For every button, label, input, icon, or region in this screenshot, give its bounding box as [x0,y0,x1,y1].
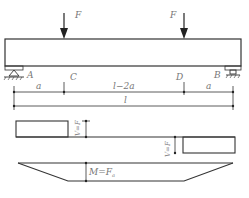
shear-diagram [16,121,235,153]
shear-dim-left [82,121,90,137]
pin-support-icon [4,66,24,80]
dim-label-db: a [206,81,211,91]
roller-support-icon [225,66,241,78]
point-label-c: C [70,72,77,82]
beam [5,39,241,66]
moment-label: M=Fa [88,167,115,178]
shear-label-right: V=F [164,140,172,157]
load-label-left: F [74,10,82,20]
load-arrow-right [180,13,188,39]
shear-label-left: V=F [74,119,82,136]
point-label-a: A [26,70,34,80]
load-label-right: F [169,10,177,20]
point-label-d: D [175,72,183,82]
dim-label-ac: a [36,81,41,91]
moment-diagram [18,163,233,181]
dim-label-total: l [124,95,127,105]
beam-diagram: F F A B C D a l−2a [0,0,249,198]
dim-label-cd: l−2a [113,81,135,91]
point-label-b: B [213,70,221,80]
load-arrow-left [60,13,68,39]
